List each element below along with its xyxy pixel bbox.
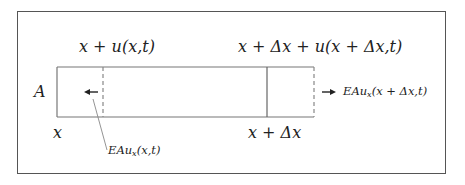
left-displaced-label: x + u(x,t): [79, 39, 155, 55]
left-position-label: x: [53, 125, 62, 141]
area-label: A: [34, 84, 46, 100]
right-force-label: EAux(x + Δx,t): [343, 86, 427, 99]
right-force-arrow-icon: [330, 89, 336, 95]
right-position-label: x + Δx: [248, 125, 301, 141]
left-force-leader-line: [93, 99, 107, 150]
right-displaced-label: x + Δx + u(x + Δx,t): [238, 39, 402, 55]
left-force-label: EAux(x,t): [108, 145, 160, 158]
left-force-arrow-icon: [84, 89, 90, 95]
